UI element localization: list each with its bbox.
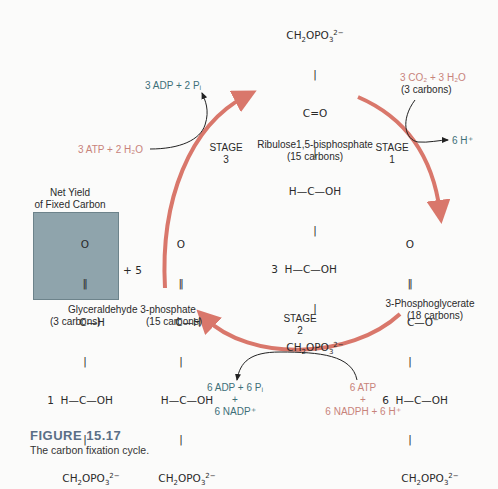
g3p-multiplier: + 5 bbox=[123, 264, 142, 277]
g3p-recycled-carbons: (15 carbons) bbox=[146, 316, 202, 328]
co2-water-input: 3 CO₂ + 3 H₂O bbox=[400, 72, 466, 84]
proton-output: 6 H⁺ bbox=[452, 135, 473, 147]
stage2-input: 6 ATP + 6 NADPH + 6 H⁺ bbox=[318, 382, 408, 418]
rubp-name: Ribulose1,5-bisphosphate bbox=[250, 139, 380, 151]
stage2-output: 6 ADP + 6 Pᵢ + 6 NADP⁺ bbox=[195, 382, 275, 418]
stage2-label: STAGE2 bbox=[280, 313, 320, 337]
adp-pi-output: 3 ADP + 2 Pᵢ bbox=[145, 80, 201, 92]
co2-carbons: (3 carbons) bbox=[401, 84, 452, 96]
pga-structure: O ‖ C—O− | 6 H—C—OH | CH2OPO32− bbox=[380, 212, 470, 489]
g3p-yield-carbons: (3 carbons) bbox=[50, 316, 101, 328]
stage1-label: STAGE1 bbox=[372, 142, 412, 166]
rubp-carbons: (15 carbons) bbox=[250, 151, 380, 163]
net-yield-title: Net Yield of Fixed Carbon bbox=[20, 187, 120, 211]
figure-title: FIGURE 15.17 bbox=[30, 428, 121, 443]
g3p-name: Glyceraldehyde 3-phosphate bbox=[68, 304, 196, 316]
figure-caption: The carbon fixation cycle. bbox=[30, 444, 149, 456]
pga-name: 3-Phosphoglycerate bbox=[375, 298, 485, 310]
pga-carbons: (18 carbons) bbox=[380, 310, 490, 322]
atp-water-input: 3 ATP + 2 H₂O bbox=[78, 144, 143, 156]
stage3-label: STAGE3 bbox=[206, 142, 246, 166]
g3p-recycled-structure: O ‖ C—H | H—C—OH | CH2OPO32− bbox=[146, 212, 216, 489]
